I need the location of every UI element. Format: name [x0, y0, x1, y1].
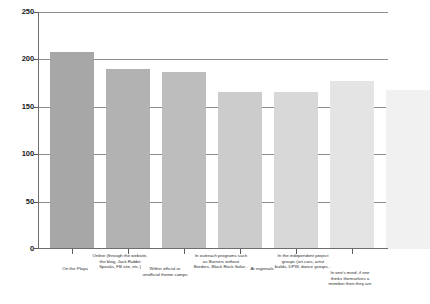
category-label-line: member then they are [329, 281, 372, 286]
y-axis-labels: 250 200 150 100 50 0 [0, 12, 34, 249]
category-label-line: unofficial theme camps [143, 272, 188, 277]
category-label-line: thinks themselves a [331, 276, 370, 281]
category-label-line: Online (through the website, [93, 253, 148, 258]
bar-theme-camps [162, 72, 206, 249]
y-tick-label-250: 250 [4, 8, 34, 16]
y-tick-label-200: 200 [4, 55, 34, 63]
x-axis-category-labels: On the Playa Online (through the website… [0, 249, 405, 304]
category-label-line: builds, DPW, dance groups... [275, 264, 332, 269]
y-tick-label-50: 50 [4, 198, 34, 206]
bar-regionals [274, 92, 318, 249]
bar-on-the-playa [50, 52, 94, 249]
category-label-line: In the independent project [278, 253, 329, 258]
y-tick-label-150: 150 [4, 103, 34, 111]
bar-outreach-programs [218, 92, 262, 249]
category-label-line: as Burners without [203, 259, 239, 264]
y-tick-label-100: 100 [4, 150, 34, 158]
y-axis-line [38, 12, 39, 249]
category-label-ones-mind: In one's mind, if one thinks themselves … [310, 270, 390, 287]
category-label-line: groups (art cars, artist [282, 259, 325, 264]
category-label-line: Within official or [150, 266, 181, 271]
bar-online [106, 69, 150, 249]
category-label-line: In one's mind, if one [330, 270, 369, 275]
category-label-line: the blog, Jack Rabbit [99, 259, 140, 264]
plot-area [38, 12, 388, 249]
category-label-line: In outreach programs such [195, 253, 247, 258]
bar-ones-mind [386, 90, 430, 249]
bars-layer [38, 12, 388, 249]
bar-independent-projects [330, 81, 374, 249]
category-label-independent-projects: In the independent project groups (art c… [258, 253, 348, 270]
